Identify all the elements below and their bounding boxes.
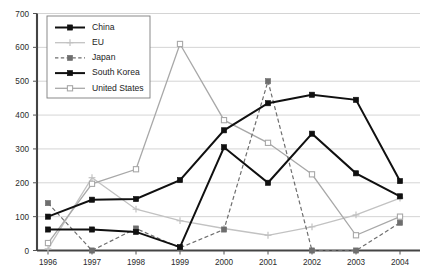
data-point: [45, 227, 50, 232]
y-axis-tick-labels: 0100200300400500600700: [15, 10, 29, 256]
data-point: [353, 248, 358, 253]
data-point: [221, 227, 226, 232]
legend-label: EU: [92, 37, 104, 47]
legend-label: China: [92, 22, 115, 32]
series-line: [48, 95, 400, 217]
data-point: [397, 194, 402, 199]
legend-swatch-marker: [67, 25, 72, 30]
data-point: [89, 248, 94, 253]
data-point: [89, 227, 94, 232]
series-eu: [45, 174, 404, 252]
data-point: [265, 140, 270, 145]
data-point: [221, 128, 226, 133]
chart-legend: ChinaEUJapanSouth KoreaUnited States: [47, 16, 150, 98]
legend-swatch-marker: [67, 55, 72, 60]
data-point: [397, 214, 402, 219]
x-tick-label: 2004: [391, 258, 410, 267]
x-axis-tick-labels: 199619971998199920002001200220032004: [39, 258, 410, 267]
legend-label: United States: [92, 83, 144, 93]
y-tick-label: 400: [15, 111, 29, 120]
data-point: [177, 41, 182, 46]
x-tick-label: 1996: [39, 258, 58, 267]
data-point: [309, 131, 314, 136]
data-point: [221, 118, 226, 123]
data-point: [309, 172, 314, 177]
data-point: [45, 240, 50, 245]
series-line: [48, 178, 400, 249]
data-point: [177, 245, 182, 250]
legend-label: Japan: [92, 52, 116, 62]
series-china: [45, 92, 402, 219]
data-point: [265, 180, 270, 185]
data-point: [353, 233, 358, 238]
data-point: [309, 248, 314, 253]
legend-label: South Korea: [92, 67, 140, 77]
y-tick-label: 500: [15, 77, 29, 86]
x-tick-label: 2001: [259, 258, 278, 267]
data-point: [353, 97, 358, 102]
legend-swatch-marker: [67, 71, 72, 76]
data-point: [397, 220, 402, 225]
data-point: [265, 79, 270, 84]
line-chart: 0100200300400500600700 19961997199819992…: [0, 0, 425, 274]
data-point: [89, 181, 94, 186]
data-point: [397, 178, 402, 183]
data-point: [177, 177, 182, 182]
y-tick-label: 0: [24, 247, 29, 256]
y-tick-label: 600: [15, 43, 29, 52]
x-tick-label: 2003: [347, 258, 366, 267]
data-point: [133, 229, 138, 234]
data-point: [133, 167, 138, 172]
x-tick-label: 2000: [215, 258, 234, 267]
data-point: [45, 201, 50, 206]
x-tick-label: 1998: [127, 258, 146, 267]
data-point: [353, 171, 358, 176]
chart-plot-area: 0100200300400500600700 19961997199819992…: [0, 0, 425, 274]
x-tick-label: 1999: [171, 258, 190, 267]
y-tick-label: 700: [15, 10, 29, 19]
y-tick-label: 300: [15, 145, 29, 154]
data-point: [45, 214, 50, 219]
x-tick-label: 2002: [303, 258, 322, 267]
data-point: [133, 196, 138, 201]
data-point: [89, 197, 94, 202]
y-tick-label: 100: [15, 213, 29, 222]
y-tick-label: 200: [15, 179, 29, 188]
data-point: [309, 92, 314, 97]
x-tick-label: 1997: [83, 258, 102, 267]
legend-swatch-marker: [67, 86, 72, 91]
data-point: [221, 145, 226, 150]
data-point: [265, 101, 270, 106]
